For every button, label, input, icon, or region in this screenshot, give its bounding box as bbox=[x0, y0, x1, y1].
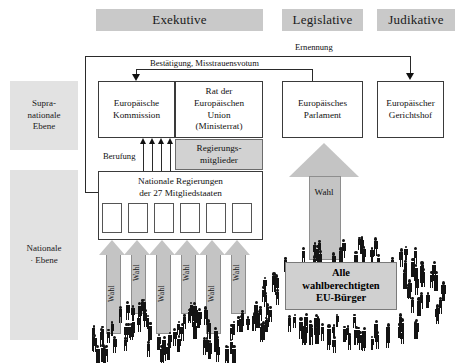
person-silhouette bbox=[240, 310, 244, 327]
berufung-stem-1 bbox=[143, 144, 144, 172]
berufung-arrowhead-1 bbox=[140, 138, 146, 144]
person-silhouette bbox=[205, 337, 209, 352]
wahl-arrow-parliament-label: Wahl bbox=[289, 187, 359, 197]
person-silhouette bbox=[399, 248, 404, 267]
eu-citizens-label: Alle wahlberechtigten EU-Bürger bbox=[285, 262, 397, 310]
person-silhouette bbox=[263, 277, 267, 292]
person-silhouette bbox=[362, 246, 366, 263]
banner-exekutive-label: Exekutive bbox=[152, 12, 207, 27]
person-silhouette bbox=[426, 292, 430, 308]
member-state-slot bbox=[180, 203, 200, 233]
banner-judikative: Judikative bbox=[377, 9, 455, 31]
crowd-national-left bbox=[88, 296, 268, 358]
person-silhouette bbox=[287, 315, 291, 332]
person-silhouette bbox=[101, 326, 105, 341]
person-silhouette bbox=[341, 239, 345, 257]
berufung-stem-3 bbox=[161, 144, 162, 172]
box-regierungsmitglieder-label: Regierungs- mitglieder bbox=[197, 143, 242, 166]
person-silhouette bbox=[177, 321, 180, 335]
box-europaeischer-gerichtshof-label: Europäischer Gerichtshof bbox=[386, 98, 434, 122]
bestaetigung-line-horizontal bbox=[136, 69, 312, 70]
ernennung-line-stub bbox=[85, 192, 99, 193]
box-europaeischer-gerichtshof: Europäischer Gerichtshof bbox=[377, 81, 444, 138]
person-silhouette bbox=[327, 334, 331, 349]
ernennung-line-left-vertical bbox=[85, 56, 86, 192]
person-silhouette bbox=[370, 336, 373, 350]
person-silhouette bbox=[399, 318, 404, 339]
person-silhouette bbox=[347, 335, 351, 350]
person-silhouette bbox=[168, 332, 172, 349]
berufung-arrowhead-3 bbox=[158, 138, 164, 144]
person-silhouette bbox=[182, 314, 186, 329]
person-silhouette bbox=[146, 341, 150, 357]
person-silhouette bbox=[206, 319, 211, 339]
member-state-slot bbox=[102, 203, 122, 233]
wahl-arrow-label: Wahl bbox=[232, 264, 241, 281]
ernennung-label: Ernennung bbox=[292, 43, 336, 52]
box-rat-der-europaeischen-union: Rat der Europäischen Union (Ministerrat) bbox=[175, 81, 263, 138]
person-silhouette bbox=[263, 292, 267, 308]
person-silhouette bbox=[231, 345, 236, 363]
member-state-slot bbox=[232, 203, 252, 233]
person-silhouette bbox=[335, 314, 338, 328]
person-silhouette bbox=[215, 343, 219, 361]
person-silhouette bbox=[358, 331, 363, 350]
bestaetigung-arrowhead bbox=[132, 74, 140, 81]
berufung-label: Berufung bbox=[100, 152, 138, 161]
box-europaeisches-parlament-label: Europäisches Parlament bbox=[298, 98, 347, 122]
banner-national-level: Nationale · Ebene bbox=[10, 170, 78, 340]
person-silhouette bbox=[112, 336, 116, 354]
berufung-arrowhead-4 bbox=[167, 138, 173, 144]
person-silhouette bbox=[196, 312, 200, 328]
person-silhouette bbox=[268, 306, 272, 322]
eu-citizens-label-text: Alle wahlberechtigten EU-Bürger bbox=[302, 267, 379, 305]
bestaetigung-label: Bestätigung, Misstrauensvotum bbox=[147, 59, 262, 68]
person-silhouette bbox=[143, 309, 148, 328]
box-europaeisches-parlament: Europäisches Parlament bbox=[282, 81, 363, 138]
person-silhouette bbox=[160, 345, 165, 363]
person-silhouette bbox=[308, 324, 313, 345]
person-silhouette bbox=[229, 324, 233, 340]
ernennung-arrowhead bbox=[406, 73, 414, 80]
person-silhouette bbox=[375, 331, 379, 349]
person-silhouette bbox=[404, 246, 408, 261]
person-silhouette bbox=[421, 262, 425, 278]
member-state-slot bbox=[154, 203, 174, 233]
berufung-arrowhead-2 bbox=[149, 138, 155, 144]
berufung-stem-4 bbox=[170, 144, 171, 172]
banner-supranational-level: Supra- nationale Ebene bbox=[10, 81, 78, 150]
bestaetigung-line-right-vertical bbox=[312, 69, 313, 81]
ernennung-line-right-vertical bbox=[410, 56, 411, 74]
box-europaeische-kommission: Europäische Kommission bbox=[98, 81, 175, 138]
person-silhouette bbox=[91, 336, 94, 350]
person-silhouette bbox=[373, 237, 378, 256]
person-silhouette bbox=[385, 330, 389, 348]
person-silhouette bbox=[137, 314, 141, 331]
person-silhouette bbox=[191, 310, 195, 327]
person-silhouette bbox=[118, 306, 122, 323]
person-silhouette bbox=[316, 318, 320, 335]
person-silhouette bbox=[131, 305, 135, 321]
person-silhouette bbox=[107, 329, 111, 343]
person-silhouette bbox=[332, 336, 336, 353]
person-silhouette bbox=[411, 297, 415, 313]
person-silhouette bbox=[126, 323, 130, 338]
person-silhouette bbox=[298, 317, 303, 338]
person-silhouette bbox=[362, 327, 366, 345]
person-silhouette bbox=[414, 275, 419, 294]
person-silhouette bbox=[147, 327, 150, 341]
person-silhouette bbox=[271, 272, 276, 292]
person-silhouette bbox=[403, 260, 407, 276]
person-silhouette bbox=[96, 345, 100, 363]
person-silhouette bbox=[406, 284, 409, 298]
person-silhouette bbox=[441, 286, 445, 301]
banner-judikative-label: Judikative bbox=[388, 12, 443, 27]
eu-institutions-diagram: Exekutive Legislative Judikative Supra- … bbox=[0, 0, 461, 363]
person-silhouette bbox=[417, 297, 422, 316]
member-state-slot bbox=[128, 203, 148, 233]
person-silhouette bbox=[110, 321, 114, 335]
box-nationale-regierungen-label: Nationale Regierungen der 27 Mitgliedsta… bbox=[138, 176, 223, 200]
banner-supranational-level-label: Supra- nationale Ebene bbox=[28, 98, 61, 134]
person-silhouette bbox=[413, 321, 417, 339]
banner-exekutive: Exekutive bbox=[96, 9, 263, 31]
